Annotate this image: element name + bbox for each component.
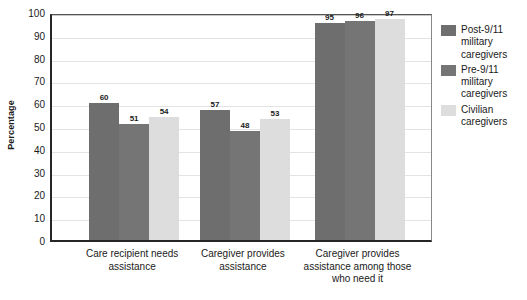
bar-value-label: 60 [100, 93, 109, 102]
bar: 97 [375, 19, 405, 240]
y-tick-label-10: 10 [34, 214, 45, 224]
y-tick-label-20: 20 [34, 191, 45, 201]
legend-label: Civilian caregivers [461, 104, 527, 129]
bar: 51 [119, 124, 149, 240]
y-tick-label-100: 100 [28, 9, 45, 19]
legend-item[interactable]: Civilian caregivers [441, 104, 527, 129]
bar-value-label: 96 [355, 11, 364, 20]
y-tick-label-90: 90 [34, 32, 45, 42]
bar: 54 [149, 117, 179, 240]
bar: 95 [315, 23, 345, 240]
x-axis-category-labels: Care recipient needs assistanceCaregiver… [50, 248, 432, 298]
x-category-label: Caregiver provides assistance among thos… [299, 248, 417, 286]
legend-swatch-icon [441, 25, 456, 36]
bar: 60 [89, 103, 119, 240]
bar: 96 [345, 21, 375, 240]
legend-item[interactable]: Pre-9/11 military caregivers [441, 64, 527, 101]
legend-swatch-icon [441, 105, 456, 116]
y-tick-label-80: 80 [34, 55, 45, 65]
x-category-label: Caregiver provides assistance [187, 248, 299, 273]
legend-label: Post-9/11 military caregivers [461, 24, 527, 61]
bar-value-label: 54 [160, 107, 169, 116]
legend-label: Pre-9/11 military caregivers [461, 64, 527, 101]
bar: 57 [200, 110, 230, 240]
bar-value-label: 53 [270, 109, 279, 118]
y-tick-label-50: 50 [34, 123, 45, 133]
bar-value-label: 97 [385, 9, 394, 18]
bar-value-label: 51 [130, 114, 139, 123]
legend: Post-9/11 military caregiversPre-9/11 mi… [441, 24, 527, 131]
bar-value-label: 95 [325, 13, 334, 22]
bar: 53 [260, 119, 290, 240]
y-tick-label-0: 0 [39, 237, 45, 247]
bar-value-label: 48 [240, 121, 249, 130]
y-tick-label-70: 70 [34, 77, 45, 87]
y-tick-label-30: 30 [34, 169, 45, 179]
bar-chart-figure: Percentage 1009080706050403020100 605154… [0, 0, 527, 300]
y-tick-label-40: 40 [34, 146, 45, 156]
bar: 48 [230, 131, 260, 240]
plot-area: 605154574853959697 [50, 14, 432, 242]
x-category-label: Care recipient needs assistance [79, 248, 185, 273]
bar-value-label: 57 [210, 100, 219, 109]
legend-swatch-icon [441, 65, 456, 76]
y-axis-tick-labels: 1009080706050403020100 [18, 14, 48, 242]
legend-item[interactable]: Post-9/11 military caregivers [441, 24, 527, 61]
y-tick-label-60: 60 [34, 100, 45, 110]
bar-series-container: 605154574853959697 [52, 15, 431, 240]
y-axis-title-text: Percentage [6, 100, 16, 150]
